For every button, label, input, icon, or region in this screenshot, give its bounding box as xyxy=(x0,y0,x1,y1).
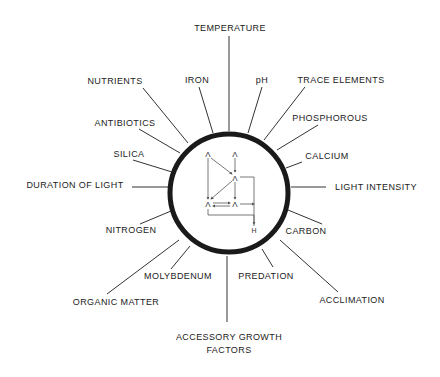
label-calcium: CALCIUM xyxy=(305,151,348,161)
label-organic-matter: ORGANIC MATTER xyxy=(73,297,160,307)
node-a1: Λ xyxy=(205,150,211,159)
spoke-nitrogen xyxy=(140,211,171,224)
spoke-iron xyxy=(199,87,213,133)
label-temperature: TEMPERATURE xyxy=(194,23,266,33)
label-duration-of-light: DURATION OF LIGHT xyxy=(26,180,123,190)
spoke-silica xyxy=(133,160,172,172)
spoke-ph xyxy=(248,87,262,133)
label-carbon: CARBON xyxy=(286,226,327,236)
spoke-calcium xyxy=(286,162,302,168)
label-acclimation: ACCLIMATION xyxy=(319,295,384,305)
label-accessory-growth-factors-line1: ACCESSORY GROWTH xyxy=(176,332,282,342)
node-a4: Λ xyxy=(205,200,211,209)
factor-diagram: Λ Λ Λ Λ Λ H TEMPERATURE IRON pH TRACE EL… xyxy=(0,0,440,377)
label-trace-elements: TRACE ELEMENTS xyxy=(297,75,384,85)
label-nutrients: NUTRIENTS xyxy=(87,76,142,86)
label-iron: IRON xyxy=(185,75,209,85)
spoke-organic-matter xyxy=(107,240,179,294)
spoke-antibiotics xyxy=(139,129,180,153)
node-a3: Λ xyxy=(232,174,238,183)
spoke-acclimation xyxy=(280,240,338,292)
spoke-phosphorous xyxy=(277,125,318,150)
spoke-predation xyxy=(262,249,273,267)
label-light-intensity: LIGHT INTENSITY xyxy=(335,182,417,192)
label-ph: pH xyxy=(256,75,268,85)
spoke-molybdenum xyxy=(171,246,190,269)
label-predation: PREDATION xyxy=(238,271,293,281)
node-a2: Λ xyxy=(232,150,238,159)
spoke-carbon xyxy=(288,210,322,224)
label-nitrogen: NITROGEN xyxy=(106,225,157,235)
label-antibiotics: ANTIBIOTICS xyxy=(95,118,156,128)
node-a5: Λ xyxy=(232,200,238,209)
label-silica: SILICA xyxy=(114,149,145,159)
label-molybdenum: MOLYBDENUM xyxy=(144,271,212,281)
label-accessory-growth-factors-line2: FACTORS xyxy=(206,345,251,355)
label-phosphorous: PHOSPHOROUS xyxy=(292,113,367,123)
node-h: H xyxy=(251,227,256,234)
central-ring xyxy=(170,134,288,252)
